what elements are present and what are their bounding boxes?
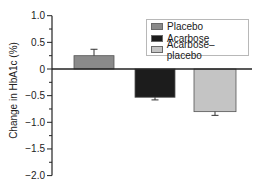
bar-acarbose-placebo: [194, 69, 236, 112]
legend-item-acarbose-placebo: Acarbose–placebo: [151, 44, 248, 56]
legend-label: Placebo: [167, 21, 203, 32]
legend-swatch-acarbose: [151, 35, 163, 42]
legend: Placebo Acarbose Acarbose–placebo: [146, 19, 249, 56]
y-tick-label: −1.5: [25, 143, 45, 154]
y-tick-label: 0: [39, 64, 45, 75]
legend-label: Acarbose–placebo: [167, 39, 248, 61]
y-tick-label: −0.5: [25, 90, 45, 101]
y-axis-label: Change in HbA1c (%): [8, 26, 19, 156]
bar-acarbose: [135, 69, 175, 97]
y-tick-label: −2.0: [25, 170, 45, 181]
legend-swatch-placebo: [151, 23, 163, 30]
y-axis: 1.00.50−0.5−1.0−1.5−2.0: [25, 10, 52, 181]
legend-item-placebo: Placebo: [151, 21, 248, 33]
legend-swatch-acarbose-placebo: [151, 46, 163, 53]
bar-placebo: [74, 56, 114, 69]
y-tick-label: 0.5: [31, 37, 45, 48]
y-tick-label: 1.0: [31, 10, 45, 21]
y-tick-label: −1.0: [25, 117, 45, 128]
